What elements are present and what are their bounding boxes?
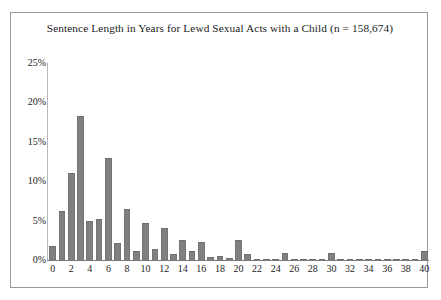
y-axis-tick-label: 0% xyxy=(11,255,46,265)
x-axis-tick-label: 30 xyxy=(326,263,336,275)
bar xyxy=(68,173,75,260)
bar xyxy=(152,249,159,260)
chart-title: Sentence Length in Years for Lewd Sexual… xyxy=(39,21,401,36)
y-axis-tick-labels: 25%20%15%10%5%0% xyxy=(11,63,46,268)
bar xyxy=(393,259,400,260)
bar xyxy=(421,251,428,260)
bar xyxy=(272,259,279,260)
x-axis-tick-label: 10 xyxy=(141,263,151,275)
bar xyxy=(347,259,354,260)
bar xyxy=(207,257,214,260)
bar xyxy=(244,254,251,260)
bar xyxy=(86,221,93,260)
x-axis-tick-label: 28 xyxy=(308,263,318,275)
bar xyxy=(161,228,168,260)
y-axis-tick-label: 5% xyxy=(11,216,46,226)
bar xyxy=(319,259,326,260)
x-axis-tick-label: 34 xyxy=(364,263,374,275)
bar xyxy=(142,223,149,260)
bar xyxy=(235,240,242,260)
bar xyxy=(189,251,196,260)
bar xyxy=(254,259,261,260)
x-axis-tick-label: 32 xyxy=(345,263,355,275)
bar xyxy=(179,240,186,260)
bar xyxy=(96,219,103,260)
bar xyxy=(49,246,56,260)
bar xyxy=(356,259,363,260)
bar xyxy=(198,242,205,260)
bar xyxy=(226,258,233,260)
bar xyxy=(328,253,335,260)
bar xyxy=(124,209,131,260)
x-axis-tick-label: 0 xyxy=(50,263,55,275)
x-axis-tick-label: 14 xyxy=(178,263,188,275)
bar-series xyxy=(48,63,429,260)
bar xyxy=(114,243,121,260)
bar xyxy=(402,259,409,260)
y-axis-tick-label: 25% xyxy=(11,58,46,68)
x-axis-line xyxy=(47,260,429,261)
bar xyxy=(384,259,391,260)
x-axis-tick-label: 12 xyxy=(159,263,169,275)
bar xyxy=(170,254,177,260)
bar xyxy=(77,116,84,260)
x-axis-tick-label: 24 xyxy=(271,263,281,275)
x-axis-tick-label: 20 xyxy=(234,263,244,275)
bar xyxy=(282,253,289,260)
x-axis-tick-label: 16 xyxy=(196,263,206,275)
bar xyxy=(105,158,112,260)
x-axis-tick-label: 38 xyxy=(401,263,411,275)
bar xyxy=(309,259,316,260)
bar xyxy=(365,259,372,260)
x-axis-tick-label: 8 xyxy=(124,263,129,275)
x-axis-tick-label: 26 xyxy=(289,263,299,275)
bar xyxy=(217,256,224,260)
x-axis-tick-label: 6 xyxy=(106,263,111,275)
y-axis-tick-label: 20% xyxy=(11,97,46,107)
bar xyxy=(412,259,419,260)
y-axis-tick-label: 15% xyxy=(11,137,46,147)
bar xyxy=(133,251,140,260)
x-axis-tick-labels: 0246810121416182022242628303234363840 xyxy=(48,263,429,279)
x-axis-tick-label: 18 xyxy=(215,263,225,275)
y-axis-tick-label: 10% xyxy=(11,176,46,186)
bar xyxy=(337,259,344,260)
bar xyxy=(291,259,298,260)
x-axis-tick-label: 2 xyxy=(69,263,74,275)
bar xyxy=(59,211,66,260)
x-axis-tick-label: 4 xyxy=(87,263,92,275)
x-axis-tick-label: 40 xyxy=(419,263,429,275)
x-axis-tick-label: 22 xyxy=(252,263,262,275)
x-axis-tick-label: 36 xyxy=(382,263,392,275)
bar xyxy=(263,259,270,260)
chart-figure: Sentence Length in Years for Lewd Sexual… xyxy=(10,12,428,288)
bar xyxy=(375,259,382,260)
bar xyxy=(300,259,307,260)
